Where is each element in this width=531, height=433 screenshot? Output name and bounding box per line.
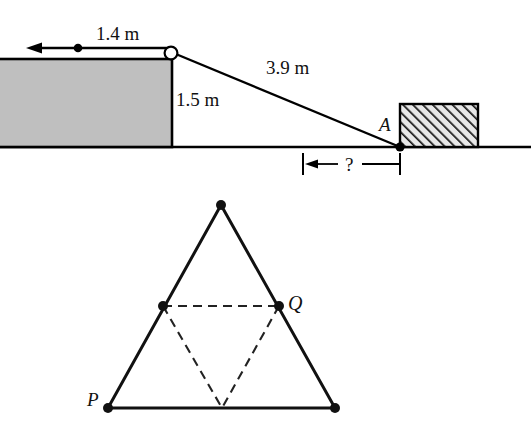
vertex-dot-p (103, 403, 113, 413)
vertex-dot-apex (216, 200, 226, 210)
triangle-midpoints-figure (0, 0, 531, 433)
diagram-page: 1.4 m 1.5 m 3.9 m A ? P Q (0, 0, 531, 433)
vertex-dot-bottom-right (330, 403, 340, 413)
label-vertex-p: P (87, 390, 99, 409)
vertex-dot-q (274, 301, 284, 311)
vertex-dot-left-midpoint (158, 301, 168, 311)
dashed-left-to-base (163, 306, 222, 408)
dashed-right-to-base (222, 306, 279, 408)
label-vertex-q: Q (288, 293, 302, 313)
